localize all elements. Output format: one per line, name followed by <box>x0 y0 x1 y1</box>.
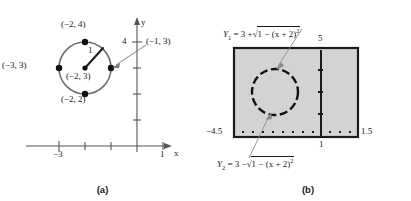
equation-y1: Y1 = 3 +√1 − (x + 2)2 <box>223 26 300 41</box>
figure-container: (−2, 4) (−3, 3) (−2, 2) (−1, 3) (−2, 3) … <box>0 0 411 201</box>
equation-y2-equals: = <box>228 159 233 169</box>
callout-leader-line <box>116 45 146 65</box>
x-tick-label-minus3: −3 <box>53 149 63 159</box>
equation-y1-subscript: 1 <box>228 34 231 41</box>
label-point-left: (−3, 3) <box>2 61 27 70</box>
label-circle-center: (−2, 3) <box>66 72 91 81</box>
equation-y1-radicand: 1 − (x + 2) <box>258 29 297 39</box>
equation-y2-radicand-group: 1 − (x + 2)2 <box>251 156 295 169</box>
caption-panel-a: (a) <box>0 184 205 195</box>
equation-y1-radical: √1 − (x + 2)2 <box>253 26 301 39</box>
x-axis-arrowhead <box>164 143 172 149</box>
y-tick-label-4: 4 <box>122 36 127 46</box>
equation-y2-exponent: 2 <box>290 157 293 164</box>
window-xmin-label: −4.5 <box>206 126 222 136</box>
label-radius: 1 <box>88 46 93 55</box>
equation-y2-prefix: 3 − <box>235 159 247 169</box>
point-left <box>56 65 62 71</box>
y-axis-arrowhead <box>134 17 140 25</box>
caption-panel-b: (b) <box>205 184 411 195</box>
equation-y2: Y2 = 3 −√1 − (x + 2)2 <box>217 156 294 171</box>
equation-y2-radical: √1 − (x + 2)2 <box>247 156 295 169</box>
equation-y2-subscript: 2 <box>222 164 225 171</box>
equation-y2-radicand: 1 − (x + 2) <box>252 159 291 169</box>
panel-a-graph <box>0 0 205 201</box>
y-axis-label: y <box>141 17 146 27</box>
equation-y1-prefix: 3 + <box>241 29 253 39</box>
panel-b: Y1 = 3 +√1 − (x + 2)2 Y2 = 3 −√1 − (x + … <box>205 0 411 201</box>
label-point-top: (−2, 4) <box>61 20 86 29</box>
window-ymin-label: 1 <box>319 139 324 149</box>
label-point-right: (−1, 3) <box>146 37 171 46</box>
panel-a: (−2, 4) (−3, 3) (−2, 2) (−1, 3) (−2, 3) … <box>0 0 205 201</box>
window-xmax-label: 1.5 <box>361 126 372 136</box>
x-tick-label-1: 1 <box>160 149 165 159</box>
label-point-bottom: (−2, 2) <box>61 95 86 104</box>
point-center <box>82 65 87 70</box>
equation-y1-equals: = <box>234 29 239 39</box>
window-ymax-label: 5 <box>318 33 323 43</box>
equation-y1-radicand-group: 1 − (x + 2)2 <box>257 26 301 39</box>
equation-y1-exponent: 2 <box>296 27 299 34</box>
x-axis-label: x <box>174 148 179 158</box>
